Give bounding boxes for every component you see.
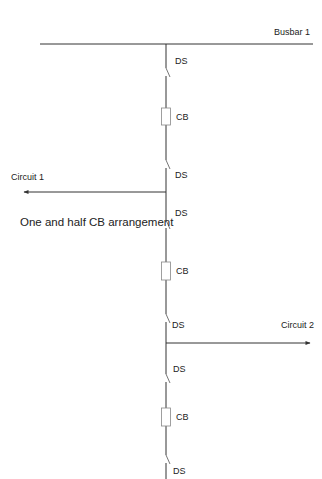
ds-label: DS bbox=[175, 208, 188, 218]
cb-label: CB bbox=[176, 266, 189, 276]
ds-label: DS bbox=[173, 466, 186, 476]
disconnect-switch-6: DS bbox=[166, 455, 186, 476]
one-and-half-cb-diagram: Busbar 1 DS CB DS Circuit 1 DS One a bbox=[0, 0, 322, 479]
ds-label: DS bbox=[173, 364, 186, 374]
cb-label: CB bbox=[176, 412, 189, 422]
busbar-label: Busbar 1 bbox=[274, 27, 310, 37]
ds-label: DS bbox=[172, 320, 185, 330]
circuit-2-label: Circuit 2 bbox=[281, 320, 314, 330]
diagram-title: One and half CB arrangement bbox=[20, 216, 174, 228]
disconnect-switch-2: DS bbox=[166, 160, 188, 180]
disconnect-switch-5: DS bbox=[166, 364, 186, 383]
disconnect-switch-1: DS bbox=[166, 56, 188, 77]
cb-label: CB bbox=[176, 112, 189, 122]
ds-label: DS bbox=[175, 56, 188, 66]
busbar-1: Busbar 1 bbox=[40, 27, 313, 44]
circuit-breaker-2: CB bbox=[162, 262, 189, 280]
circuit-2-branch: Circuit 2 bbox=[166, 320, 314, 343]
circuit-breaker-1: CB bbox=[162, 108, 189, 125]
ds-label: DS bbox=[175, 170, 188, 180]
circuit-1-label: Circuit 1 bbox=[11, 172, 44, 182]
disconnect-switch-4: DS bbox=[166, 314, 185, 330]
circuit-1-branch: Circuit 1 bbox=[11, 172, 166, 192]
circuit-breaker-3: CB bbox=[162, 408, 189, 426]
